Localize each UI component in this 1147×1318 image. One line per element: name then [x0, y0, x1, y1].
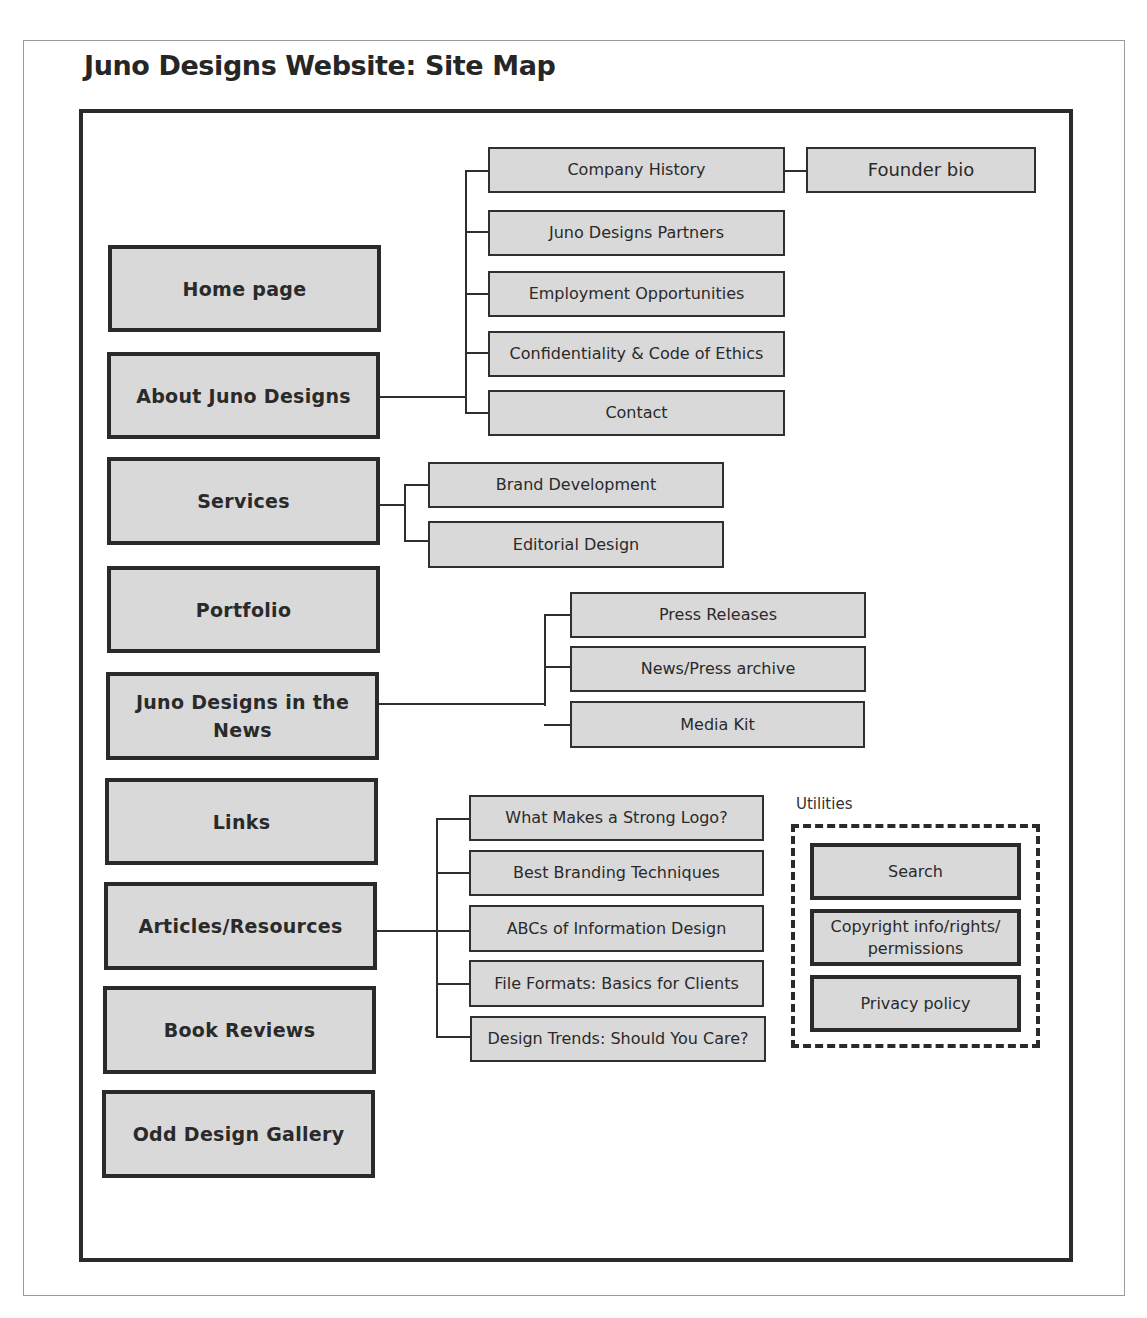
connector-articles-trunk [376, 930, 438, 932]
page-contact: Contact [488, 390, 785, 436]
page-branding-techniques: Best Branding Techniques [469, 850, 764, 896]
connector-about-branch [465, 352, 489, 354]
connector-news-trunk [379, 703, 546, 705]
connector-articles-branch [436, 818, 470, 820]
page-search: Search [810, 843, 1021, 900]
connector-news-bus [544, 614, 546, 706]
page-brand-development: Brand Development [428, 462, 724, 508]
connector-news-branch [544, 724, 571, 726]
connector-articles-branch [436, 872, 470, 874]
connector-about-trunk [380, 396, 467, 398]
page-file-formats: File Formats: Basics for Clients [469, 960, 764, 1007]
connector-services-branch [404, 540, 429, 542]
page-confidentiality: Confidentiality & Code of Ethics [488, 331, 785, 377]
page-home: Home page [108, 245, 381, 332]
page-information-design: ABCs of Information Design [469, 905, 764, 952]
page-copyright: Copyright info/rights/ permissions [810, 909, 1021, 966]
connector-about-branch [465, 293, 489, 295]
page-book-reviews: Book Reviews [103, 986, 376, 1074]
page-odd-design-gallery: Odd Design Gallery [102, 1090, 375, 1178]
page-company-history: Company History [488, 147, 785, 193]
connector-news-branch [544, 614, 571, 616]
connector-services-branch [404, 484, 429, 486]
page-privacy-policy: Privacy policy [810, 975, 1021, 1032]
page-strong-logo: What Makes a Strong Logo? [469, 795, 764, 841]
page-partners: Juno Designs Partners [488, 210, 785, 256]
connector-about-branch [465, 412, 489, 414]
connector-services-trunk [380, 504, 406, 506]
page-founder-bio: Founder bio [806, 147, 1036, 193]
page-press-releases: Press Releases [570, 592, 866, 638]
connector-history-founder [785, 170, 807, 172]
page-portfolio: Portfolio [107, 566, 380, 653]
page-editorial-design: Editorial Design [428, 521, 724, 568]
connector-about-branch [465, 231, 489, 233]
page-about: About Juno Designs [107, 352, 380, 439]
page-services: Services [107, 457, 380, 545]
connector-articles-bus [436, 818, 438, 1038]
diagram-title: Juno Designs Website: Site Map [84, 50, 555, 81]
utilities-label: Utilities [796, 795, 852, 813]
page-articles: Articles/Resources [104, 882, 377, 970]
connector-articles-branch [436, 1036, 470, 1038]
page-media-kit: Media Kit [570, 701, 865, 748]
connector-news-branch [544, 666, 571, 668]
connector-about-branch [465, 170, 489, 172]
page-news-archive: News/Press archive [570, 646, 866, 692]
connector-about-bus [465, 170, 467, 414]
page-employment: Employment Opportunities [488, 271, 785, 317]
page-links: Links [105, 778, 378, 865]
connector-articles-branch [436, 983, 470, 985]
page-news: Juno Designs in the News [106, 672, 379, 760]
connector-services-bus [404, 484, 406, 542]
connector-articles-branch [436, 930, 470, 932]
page-design-trends: Design Trends: Should You Care? [470, 1016, 766, 1062]
